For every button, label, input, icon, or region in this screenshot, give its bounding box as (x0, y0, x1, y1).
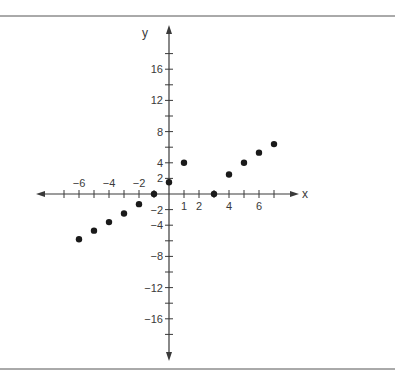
x-tick-label: −6 (73, 177, 86, 189)
x-tick-label: 4 (226, 200, 232, 212)
data-point (106, 219, 112, 225)
x-tick-label: 6 (256, 200, 262, 212)
data-points (76, 141, 277, 243)
data-point (256, 149, 262, 155)
data-point (271, 141, 277, 147)
data-point (181, 160, 187, 166)
y-tick-label: 8 (157, 126, 163, 138)
y-axis-bottom-arrow (166, 352, 172, 361)
y-tick-label: −2 (150, 204, 163, 216)
y-axis-label: y (142, 26, 148, 40)
x-tick-label: −4 (103, 177, 116, 189)
y-tick-label: −8 (150, 250, 163, 262)
y-tick-label: 16 (151, 63, 163, 75)
coordinate-plane-chart: −6−4−21246 1612842−2−4−8−12−16 x y (0, 0, 405, 384)
data-point (226, 171, 232, 177)
x-axis-left-arrow (36, 191, 45, 197)
y-tick-label: −12 (144, 282, 163, 294)
y-axis-top-arrow (166, 25, 172, 34)
data-point (136, 201, 142, 207)
x-axis-right-arrow (290, 191, 299, 197)
y-tick-label: −16 (144, 313, 163, 325)
data-point (121, 210, 127, 216)
x-tick-label: 1 (181, 200, 187, 212)
y-tick-label: 4 (157, 157, 163, 169)
y-tick-label: 2 (157, 172, 163, 184)
x-tick-label: −2 (133, 177, 146, 189)
x-tick-label: 2 (196, 200, 202, 212)
y-tick-label: 12 (151, 94, 163, 106)
data-point (241, 160, 247, 166)
axes (36, 25, 299, 361)
data-point (211, 191, 217, 197)
data-point (76, 236, 82, 242)
y-tick-label: −4 (150, 219, 163, 231)
data-point (91, 227, 97, 233)
x-axis-label: x (302, 187, 308, 201)
data-point (151, 191, 157, 197)
data-point (166, 179, 172, 185)
